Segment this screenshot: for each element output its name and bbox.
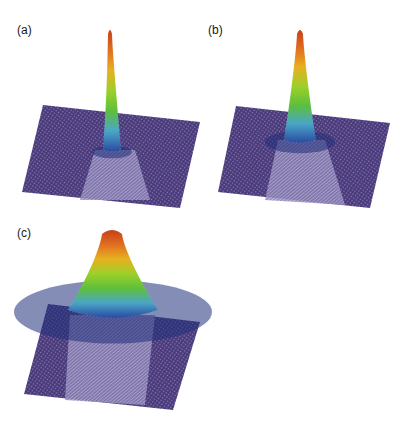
figure-canvas xyxy=(0,0,413,425)
peak-b xyxy=(284,30,316,143)
surface-plot-c xyxy=(14,230,212,410)
surface-plot-a xyxy=(22,30,200,208)
surface-plot-b xyxy=(218,30,390,208)
peak-c xyxy=(68,230,158,318)
peak-a xyxy=(103,30,121,152)
